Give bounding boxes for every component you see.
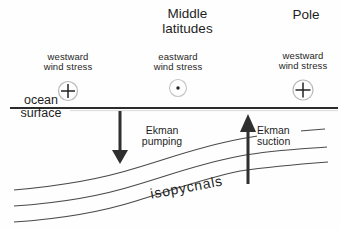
wind-stress-label-middle: eastward wind stress	[140, 52, 216, 71]
ekman-suction-label: Ekman suction	[257, 125, 301, 148]
ekman-pumping-label: Ekman pumping	[136, 125, 188, 147]
ekman-pumping-arrow-icon	[112, 111, 128, 164]
region-header-middle-latitudes: Middle latitudes	[145, 6, 230, 36]
wind-stress-label-left: westward wind stress	[30, 52, 106, 71]
region-header-pole: Pole	[280, 7, 332, 22]
wind-out-of-page-icon	[170, 80, 187, 97]
wind-stress-label-right: westward wind stress	[265, 51, 340, 70]
ekman-pumping-suction-diagram: Middle latitudes Pole westward wind stre…	[0, 0, 340, 229]
ocean-surface-label: ocean surface	[12, 94, 70, 120]
ekman-suction-arrow-icon	[240, 114, 256, 184]
wind-into-page-icon	[293, 80, 313, 100]
